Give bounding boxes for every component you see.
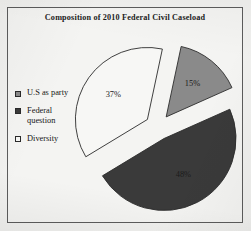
legend-label-federal-question: Federal question bbox=[27, 106, 55, 127]
pie-slice-value: 37% bbox=[106, 90, 121, 99]
legend-swatch-diversity bbox=[15, 136, 21, 142]
chart-legend: U.S as party Federal question Diversity bbox=[15, 88, 93, 151]
chart-title: Composition of 2010 Federal Civil Caselo… bbox=[7, 13, 243, 22]
legend-swatch-us-as-party bbox=[15, 91, 21, 97]
legend-label-us-as-party: U.S as party bbox=[27, 88, 68, 99]
figure-root: Composition of 2010 Federal Civil Caselo… bbox=[0, 0, 251, 231]
legend-label-diversity: Diversity bbox=[27, 134, 58, 145]
pie-slices bbox=[75, 46, 236, 210]
pie-slice-value: 15% bbox=[185, 79, 200, 88]
pie-slice-value: 48% bbox=[176, 170, 191, 179]
legend-item-us-as-party[interactable]: U.S as party bbox=[15, 88, 93, 99]
legend-item-federal-question[interactable]: Federal question bbox=[15, 106, 93, 127]
legend-item-diversity[interactable]: Diversity bbox=[15, 134, 93, 145]
legend-swatch-federal-question bbox=[15, 108, 21, 114]
